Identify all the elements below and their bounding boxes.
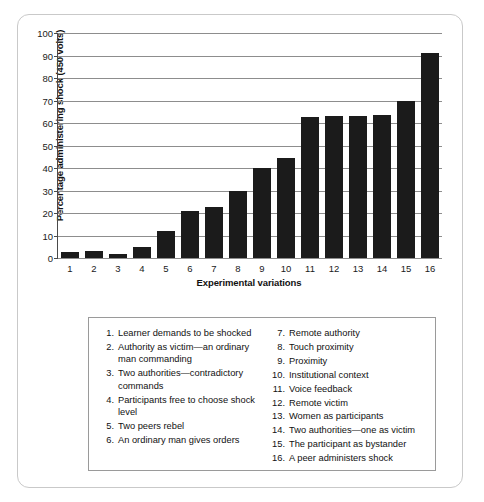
bar[interactable] xyxy=(301,117,318,258)
x-tick-label: 6 xyxy=(178,263,202,274)
legend-item-label: Proximity xyxy=(289,355,429,367)
legend-item: 9.Proximity xyxy=(270,355,429,367)
bar-group[interactable]: 5 xyxy=(154,33,178,258)
y-tick-mark xyxy=(54,258,58,259)
y-tick-label: 50 xyxy=(42,140,53,151)
legend-item: 4.Participants free to choose shock leve… xyxy=(99,394,258,419)
bar[interactable] xyxy=(85,251,102,258)
bars-layer: 12345678910111213141516 xyxy=(58,33,442,258)
legend-item-number: 14. xyxy=(270,424,289,436)
legend-item: 13.Women as participants xyxy=(270,410,429,422)
legend-item: 15.The participant as bystander xyxy=(270,438,429,450)
bar[interactable] xyxy=(133,247,150,258)
x-tick-label: 14 xyxy=(370,263,394,274)
x-tick-label: 3 xyxy=(106,263,130,274)
bar-group[interactable]: 1 xyxy=(58,33,82,258)
y-tick-label: 60 xyxy=(42,118,53,129)
legend-box: 1.Learner demands to be shocked2.Authori… xyxy=(88,317,436,471)
legend-item-label: Two peers rebel xyxy=(118,420,258,432)
bar-group[interactable]: 7 xyxy=(202,33,226,258)
legend-item: 10.Institutional context xyxy=(270,369,429,381)
bar-group[interactable]: 11 xyxy=(298,33,322,258)
legend-item-label: Remote victim xyxy=(289,397,429,409)
x-tick-label: 7 xyxy=(202,263,226,274)
bar-group[interactable]: 3 xyxy=(106,33,130,258)
legend-item: 5.Two peers rebel xyxy=(99,420,258,432)
legend-item-number: 3. xyxy=(99,367,118,392)
legend-item: 2.Authority as victim—an ordinary man co… xyxy=(99,341,258,366)
legend-item-number: 2. xyxy=(99,341,118,366)
bar-group[interactable]: 13 xyxy=(346,33,370,258)
x-tick-label: 1 xyxy=(58,263,82,274)
bar[interactable] xyxy=(205,207,222,258)
legend-item-label: Participants free to choose shock level xyxy=(118,394,258,419)
legend-item-number: 13. xyxy=(270,410,289,422)
y-tick-label: 100 xyxy=(37,28,53,39)
legend-item-number: 7. xyxy=(270,327,289,339)
legend-item: 6.An ordinary man gives orders xyxy=(99,434,258,446)
legend-item: 3.Two authorities—contradictory commands xyxy=(99,367,258,392)
bar-group[interactable]: 9 xyxy=(250,33,274,258)
legend-item-label: Institutional context xyxy=(289,369,429,381)
bar[interactable] xyxy=(349,116,366,258)
y-tick-label: 70 xyxy=(42,95,53,106)
legend-item-label: Voice feedback xyxy=(289,383,429,395)
bar[interactable] xyxy=(109,254,126,259)
y-tick-label: 40 xyxy=(42,163,53,174)
y-tick-label: 30 xyxy=(42,185,53,196)
x-tick-label: 13 xyxy=(346,263,370,274)
x-tick-label: 11 xyxy=(298,263,322,274)
bar[interactable] xyxy=(157,231,174,258)
bar[interactable] xyxy=(373,115,390,258)
legend-item-label: Two authorities—contradictory commands xyxy=(118,367,258,392)
legend-item-label: Learner demands to be shocked xyxy=(118,327,258,339)
bar[interactable] xyxy=(61,252,78,258)
legend-item-number: 11. xyxy=(270,383,289,395)
bar[interactable] xyxy=(253,168,270,258)
legend-item-number: 12. xyxy=(270,397,289,409)
legend-item: 7.Remote authority xyxy=(270,327,429,339)
bar[interactable] xyxy=(277,158,294,258)
bar-group[interactable]: 10 xyxy=(274,33,298,258)
bar-group[interactable]: 4 xyxy=(130,33,154,258)
legend-item-number: 6. xyxy=(99,434,118,446)
legend-item-label: Touch proximity xyxy=(289,341,429,353)
bar[interactable] xyxy=(325,116,342,258)
x-tick-label: 8 xyxy=(226,263,250,274)
legend-item-number: 16. xyxy=(270,452,289,464)
bar-group[interactable]: 16 xyxy=(418,33,442,258)
legend-item: 14.Two authorities—one as victim xyxy=(270,424,429,436)
bar[interactable] xyxy=(181,211,198,258)
legend-column-right: 7.Remote authority8.Touch proximity9.Pro… xyxy=(270,327,429,464)
y-tick-label: 10 xyxy=(42,230,53,241)
x-tick-label: 2 xyxy=(82,263,106,274)
legend-item-label: Remote authority xyxy=(289,327,429,339)
bar-group[interactable]: 14 xyxy=(370,33,394,258)
y-tick-label: 20 xyxy=(42,208,53,219)
legend-item-label: A peer administers shock xyxy=(289,452,429,464)
y-tick-label: 90 xyxy=(42,50,53,61)
legend-item-number: 5. xyxy=(99,420,118,432)
legend-item-number: 4. xyxy=(99,394,118,419)
x-tick-label: 4 xyxy=(130,263,154,274)
legend-item-number: 8. xyxy=(270,341,289,353)
bar-group[interactable]: 8 xyxy=(226,33,250,258)
x-tick-label: 12 xyxy=(322,263,346,274)
x-tick-label: 15 xyxy=(394,263,418,274)
legend-item-number: 10. xyxy=(270,369,289,381)
bar-group[interactable]: 12 xyxy=(322,33,346,258)
legend-item-label: An ordinary man gives orders xyxy=(118,434,258,446)
bar-group[interactable]: 2 xyxy=(82,33,106,258)
y-tick-label: 80 xyxy=(42,73,53,84)
bar[interactable] xyxy=(229,191,246,259)
legend-item: 12.Remote victim xyxy=(270,397,429,409)
x-axis-title: Experimental variations xyxy=(57,277,441,288)
legend-item-label: Authority as victim—an ordinary man comm… xyxy=(118,341,258,366)
legend-item: 11.Voice feedback xyxy=(270,383,429,395)
bar[interactable] xyxy=(421,53,438,258)
bar-group[interactable]: 15 xyxy=(394,33,418,258)
legend-item-label: Two authorities—one as victim xyxy=(289,424,429,436)
bar[interactable] xyxy=(397,101,414,259)
legend-column-left: 1.Learner demands to be shocked2.Authori… xyxy=(99,327,258,464)
bar-group[interactable]: 6 xyxy=(178,33,202,258)
